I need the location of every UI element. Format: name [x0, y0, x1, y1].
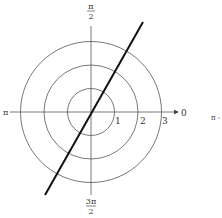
- tick-label-1: 1: [115, 116, 121, 126]
- svg-text:3π: 3π: [86, 197, 96, 206]
- polar-graph: π 2 3π 2 π 0 1 2 3 π -: [0, 0, 222, 218]
- svg-text:π: π: [88, 2, 93, 11]
- tick-label-2: 2: [140, 116, 146, 126]
- tick-label-3: 3: [162, 116, 168, 126]
- plotted-line: [45, 22, 143, 195]
- label-3pi-over-2: 3π 2: [86, 197, 96, 216]
- svg-text:2: 2: [88, 12, 93, 21]
- label-pi-over-2: π 2: [87, 2, 95, 21]
- label-zero: 0: [181, 108, 187, 118]
- label-pi: π: [3, 108, 8, 117]
- cropped-label: π -: [211, 114, 221, 122]
- svg-text:2: 2: [88, 207, 93, 216]
